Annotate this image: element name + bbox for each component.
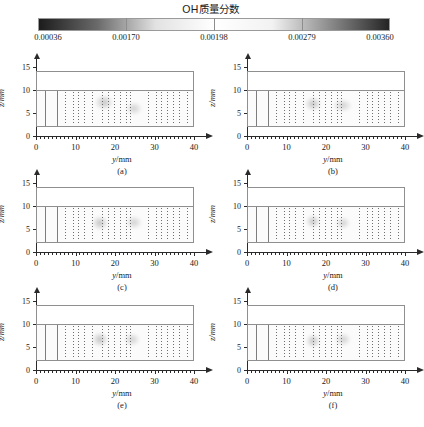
x-axis-tick-label: 30 [361, 142, 370, 152]
x-axis-label: y/mm [247, 388, 419, 398]
mesh-dotted-line [359, 326, 360, 359]
x-axis-minor-tick [377, 370, 378, 373]
x-axis-minor-tick [135, 370, 136, 373]
x-axis-minor-tick [385, 252, 386, 255]
y-axis-label: z/mm [207, 89, 217, 107]
colorbar-tick-labels: 0.000360.001700.001980.002790.00360 [0, 32, 422, 46]
panel-a: 051015010203040z/mmy/mm(a) [0, 56, 211, 172]
x-axis-minor-tick [79, 136, 80, 139]
y-axis-tick-label: 10 [215, 85, 241, 94]
y-axis-arrow-icon [34, 53, 40, 59]
x-axis-minor-tick [107, 370, 108, 373]
x-axis-minor-tick [60, 136, 61, 139]
x-axis-minor-tick [279, 370, 280, 373]
x-axis-minor-tick [314, 252, 315, 255]
mesh-dotted-line [156, 326, 157, 359]
x-axis-minor-tick [322, 252, 323, 255]
wall-line [45, 207, 46, 242]
y-axis-tick-label: 10 [4, 319, 30, 328]
x-axis-tick [287, 136, 288, 140]
inner-channel-rect [36, 206, 194, 243]
x-axis-minor-tick [369, 136, 370, 139]
wall-line [268, 325, 269, 360]
x-axis-minor-tick [283, 136, 284, 139]
x-axis-minor-tick [60, 370, 61, 373]
y-axis-tick-label: 0 [215, 132, 241, 141]
colorbar-tick-label: 0.00036 [34, 32, 62, 42]
x-axis-tick [155, 136, 156, 140]
x-axis-minor-tick [123, 136, 124, 139]
x-axis-minor-tick [48, 252, 49, 255]
x-axis-minor-tick [369, 370, 370, 373]
x-axis-minor-tick [267, 136, 268, 139]
x-axis-minor-tick [346, 252, 347, 255]
mesh-dotted-line [187, 92, 188, 125]
x-axis-minor-tick [72, 252, 73, 255]
x-axis-minor-tick [170, 370, 171, 373]
x-axis-minor-tick [393, 136, 394, 139]
x-axis-minor-tick [389, 252, 390, 255]
x-axis-minor-tick [330, 252, 331, 255]
mesh-dotted-line [384, 326, 385, 359]
x-axis-minor-tick [275, 136, 276, 139]
x-axis-minor-tick [358, 370, 359, 373]
x-axis-minor-tick [373, 370, 374, 373]
mesh-dotted-line [114, 92, 115, 125]
x-axis-tick-label: 10 [282, 142, 291, 152]
colorbar-tick-label: 0.00198 [200, 32, 228, 42]
mesh-dotted-line [126, 326, 127, 359]
mesh-dotted-line [398, 92, 399, 125]
x-axis-tick [326, 252, 327, 256]
x-axis-minor-tick [119, 252, 120, 255]
mesh-dotted-line [325, 326, 326, 359]
x-axis-minor-tick [251, 252, 252, 255]
x-axis-tick-label: 10 [282, 258, 291, 268]
x-axis-minor-tick [393, 370, 394, 373]
x-axis-minor-tick [310, 252, 311, 255]
x-axis-minor-tick [143, 136, 144, 139]
x-axis-minor-tick [334, 370, 335, 373]
x-axis-minor-tick [259, 136, 260, 139]
x-axis-minor-tick [389, 370, 390, 373]
x-axis-minor-tick [373, 136, 374, 139]
x-axis-minor-tick [107, 252, 108, 255]
x-axis-minor-tick [99, 370, 100, 373]
y-axis-tick-label: 5 [4, 342, 30, 351]
x-axis-minor-tick [174, 370, 175, 373]
x-axis-minor-tick [385, 370, 386, 373]
x-axis-minor-tick [190, 252, 191, 255]
x-axis-minor-tick [298, 136, 299, 139]
mesh-dotted-line [78, 92, 79, 125]
mesh-dotted-line [384, 208, 385, 241]
x-axis-tick [76, 252, 77, 256]
x-axis-minor-tick [158, 370, 159, 373]
x-axis-tick [287, 370, 288, 374]
mesh-dotted-line [161, 92, 162, 125]
x-axis-minor-tick [52, 136, 53, 139]
y-axis-tick-label: 10 [215, 201, 241, 210]
x-axis-minor-tick [103, 252, 104, 255]
y-axis-tick-label: 15 [4, 296, 30, 305]
y-axis-tick-label: 5 [215, 108, 241, 117]
y-axis-arrow-icon [245, 287, 251, 293]
x-axis-minor-tick [318, 136, 319, 139]
y-axis-tick-label: 5 [215, 342, 241, 351]
x-axis-minor-tick [119, 370, 120, 373]
x-axis-tick-label: 0 [34, 258, 38, 268]
mesh-dotted-line [295, 92, 296, 125]
mesh-dotted-line [367, 208, 368, 241]
mesh-dotted-line [303, 326, 304, 359]
mesh-dotted-line [313, 92, 314, 125]
x-axis-minor-tick [322, 136, 323, 139]
mesh-dotted-line [378, 208, 379, 241]
x-axis-tick [115, 252, 116, 256]
mesh-dotted-line [173, 92, 174, 125]
x-axis-minor-tick [401, 252, 402, 255]
x-axis-minor-tick [350, 136, 351, 139]
x-axis-minor-tick [79, 370, 80, 373]
x-axis-minor-tick [131, 252, 132, 255]
mesh-dotted-line [167, 208, 168, 241]
mesh-dotted-line [161, 326, 162, 359]
y-axis-label: z/mm [0, 323, 6, 341]
x-axis-minor-tick [119, 136, 120, 139]
